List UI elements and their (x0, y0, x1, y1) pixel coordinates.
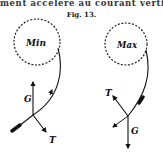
left-panel-min: Min G T (12, 19, 60, 145)
right-panel-max: Max T G (105, 23, 148, 148)
max-label: Max (116, 40, 138, 50)
figure-13-diagram: Min G T Max T G (0, 0, 163, 157)
trajectory-direction-arrow (50, 90, 52, 95)
gravity-label-right: G (131, 126, 139, 136)
trajectory-curve-right (128, 50, 148, 116)
trajectory-curve (33, 48, 60, 115)
tension-label-right: T (105, 88, 113, 98)
tension-vector-right (113, 96, 128, 116)
min-label: Min (25, 38, 46, 48)
tension-vector-left (33, 115, 46, 132)
velocity-vector-right (113, 116, 128, 127)
gravity-label-left: G (24, 94, 32, 104)
tension-label-left: T (49, 135, 57, 145)
projectile-line (19, 115, 33, 126)
projectile-body (12, 125, 20, 131)
